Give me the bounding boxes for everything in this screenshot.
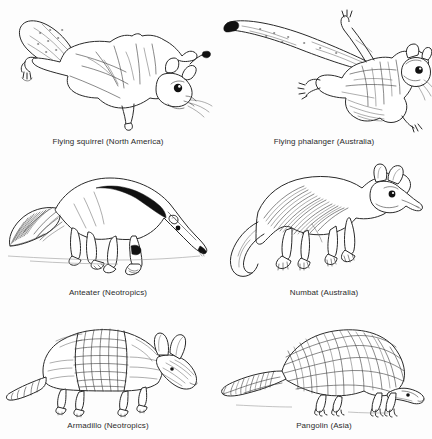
flying-phalanger-illustration [216, 0, 432, 133]
caption-numbat: Numbat (Australia) [216, 288, 432, 297]
panel-flying-squirrel: Flying squirrel (North America) [0, 0, 216, 155]
panel-anteater: Anteater (Neotropics) [0, 160, 216, 305]
figure-row-3: Armadillo (Neotropics) [0, 313, 432, 439]
panel-flying-phalanger: Flying phalanger (Australia) [216, 0, 432, 155]
convergent-evolution-figure: Flying squirrel (North America) [0, 0, 432, 439]
armadillo-illustration [0, 313, 216, 418]
panel-pangolin: Pangolin (Asia) [216, 313, 432, 439]
caption-flying-phalanger: Flying phalanger (Australia) [216, 137, 432, 146]
panel-armadillo: Armadillo (Neotropics) [0, 313, 216, 439]
figure-row-2: Anteater (Neotropics) [0, 160, 432, 305]
flying-squirrel-illustration [0, 0, 216, 133]
caption-flying-squirrel: Flying squirrel (North America) [0, 137, 216, 146]
caption-anteater: Anteater (Neotropics) [0, 288, 216, 297]
panel-numbat: Numbat (Australia) [216, 160, 432, 305]
anteater-illustration [0, 160, 216, 285]
figure-row-1: Flying squirrel (North America) [0, 0, 432, 155]
caption-armadillo: Armadillo (Neotropics) [0, 421, 216, 430]
caption-pangolin: Pangolin (Asia) [216, 421, 432, 430]
numbat-illustration [216, 160, 432, 285]
pangolin-illustration [216, 313, 432, 418]
